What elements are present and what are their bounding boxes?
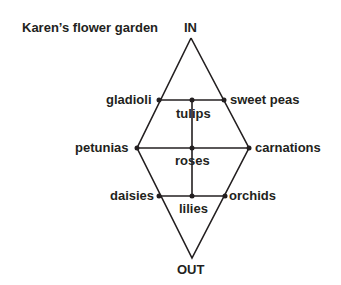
lilies-dot [190,194,195,199]
roses-dot [190,146,195,151]
carnations-label: carnations [255,141,321,155]
entry-label: IN [184,21,197,35]
orchids-dot [223,194,228,199]
garden-diagram: Karen’s flower garden IN gladioli sweet … [0,0,341,285]
diagram-title: Karen’s flower garden [22,21,158,35]
petunias-dot [135,146,140,151]
daisies-dot [157,194,162,199]
gladioli-label: gladioli [106,93,152,107]
petunias-label: petunias [75,141,128,155]
sweet-peas-dot [222,98,227,103]
carnations-dot [247,146,252,151]
sweet-peas-label: sweet peas [230,93,299,107]
tulips-dot [190,98,195,103]
gladioli-dot [157,98,162,103]
exit-label: OUT [177,263,204,277]
daisies-label: daisies [110,189,154,203]
orchids-label: orchids [229,189,276,203]
lilies-label: lilies [179,202,208,216]
tulips-label: tulips [176,107,211,121]
roses-label: roses [175,154,210,168]
